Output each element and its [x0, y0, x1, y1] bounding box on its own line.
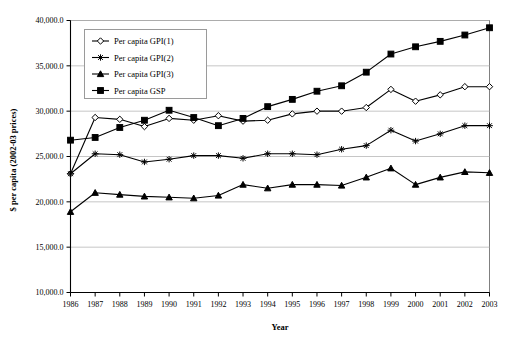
x-tick-label: 1998 — [358, 300, 374, 309]
x-tick-label: 2001 — [432, 300, 448, 309]
y-tick-label: 35,000.0 — [36, 62, 64, 71]
x-tick-label: 1996 — [309, 300, 325, 309]
x-tick-label: 2002 — [457, 300, 473, 309]
data-point-marker — [289, 96, 295, 102]
data-point-marker — [191, 115, 197, 121]
legend-marker — [98, 88, 104, 94]
data-point-marker — [363, 69, 369, 75]
x-tick-label: 1997 — [334, 300, 350, 309]
x-tick-label: 1991 — [186, 300, 202, 309]
data-point-marker — [314, 88, 320, 94]
legend-item-label: Per capita GPI(3) — [114, 69, 174, 79]
data-point-marker — [166, 107, 172, 113]
data-point-marker — [462, 32, 468, 38]
y-tick-label: 20,000.0 — [36, 198, 64, 207]
y-tick-label: 10,000.0 — [36, 288, 64, 297]
data-point-marker — [487, 25, 493, 31]
x-tick-label: 1988 — [112, 300, 128, 309]
data-point-marker — [265, 104, 271, 110]
chart-container: 10,000.015,000.020,000.025,000.030,000.0… — [0, 0, 516, 343]
x-tick-label: 1992 — [210, 300, 226, 309]
y-tick-label: 15,000.0 — [36, 243, 64, 252]
line-chart: 10,000.015,000.020,000.025,000.030,000.0… — [0, 0, 516, 343]
data-point-marker — [92, 135, 98, 141]
x-tick-label: 1993 — [235, 300, 251, 309]
x-tick-label: 2000 — [408, 300, 424, 309]
data-point-marker — [117, 125, 123, 131]
data-point-marker — [215, 123, 221, 129]
data-point-marker — [413, 44, 419, 50]
x-tick-label: 1999 — [383, 300, 399, 309]
x-tick-label: 1995 — [284, 300, 300, 309]
x-tick-label: 1989 — [136, 300, 152, 309]
legend-item-label: Per capita GPI(2) — [114, 53, 174, 63]
y-tick-label: 25,000.0 — [36, 152, 64, 161]
data-point-marker — [388, 51, 394, 57]
x-tick-label: 1990 — [161, 300, 177, 309]
y-tick-label: 40,000.0 — [36, 16, 64, 25]
data-point-marker — [142, 117, 148, 123]
y-tick-label: 30,000.0 — [36, 107, 64, 116]
legend: Per capita GPI(1)Per capita GPI(2)Per ca… — [85, 30, 207, 99]
data-point-marker — [240, 116, 246, 122]
x-tick-label: 2003 — [482, 300, 498, 309]
x-tick-label: 1994 — [260, 300, 276, 309]
data-point-marker — [339, 83, 345, 89]
legend-item-label: Per capita GPI(1) — [114, 36, 174, 46]
x-axis-title: Year — [272, 322, 289, 332]
x-tick-label: 1986 — [63, 300, 79, 309]
data-point-marker — [68, 137, 74, 143]
data-point-marker — [437, 38, 443, 44]
legend-item-label: Per capita GSP — [114, 86, 166, 96]
y-axis-title: $ per capita (2002-03 prices) — [8, 108, 18, 211]
x-tick-label: 1987 — [87, 300, 103, 309]
